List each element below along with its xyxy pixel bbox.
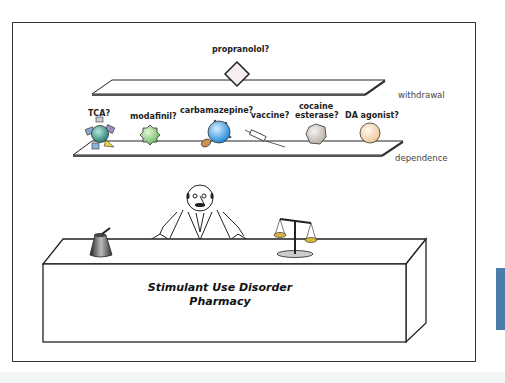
- bottom-strip: [0, 372, 505, 383]
- dependence-platform: [73, 141, 403, 156]
- pharmacy-illustration: [0, 0, 505, 383]
- label-cocaine-esterase-line1: cocaine: [295, 102, 337, 111]
- modafinil-molecule-icon: [140, 125, 160, 145]
- label-modafinil: modafinil?: [130, 112, 174, 121]
- label-cocaine-esterase: cocaine esterase?: [295, 102, 337, 120]
- cocaine-esterase-hexagon-icon: [306, 124, 326, 144]
- dependence-label: dependence: [395, 153, 448, 163]
- label-carbamazepine: carbamazepine?: [180, 106, 252, 115]
- counter-title-line2: Pharmacy: [120, 295, 320, 309]
- withdrawal-label: withdrawal: [398, 90, 445, 100]
- side-tab[interactable]: [496, 268, 505, 330]
- label-propranolol: propranolol?: [212, 45, 262, 54]
- counter-title-line1: Stimulant Use Disorder: [120, 281, 320, 295]
- label-vaccine: vaccine?: [250, 111, 290, 120]
- label-cocaine-esterase-line2: esterase?: [295, 111, 337, 120]
- pharmacist-figure: [150, 185, 248, 244]
- label-da-agonist: DA agonist?: [345, 111, 397, 120]
- label-tca: TCA?: [84, 109, 114, 118]
- counter-title: Stimulant Use Disorder Pharmacy: [120, 281, 320, 309]
- da-agonist-sphere-icon: [360, 123, 380, 143]
